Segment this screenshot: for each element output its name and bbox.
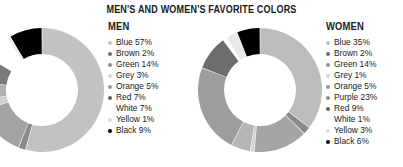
women-heading: WOMEN — [326, 20, 403, 33]
legend-label: Green 14% — [116, 59, 158, 70]
legend-label: Green 14% — [334, 59, 376, 70]
legend-label: Grey 1% — [334, 70, 367, 81]
women-donut-chart — [196, 26, 324, 154]
legend-item[interactable]: Grey 1% — [326, 70, 403, 81]
legend-item[interactable]: Blue 35% — [326, 37, 403, 48]
men-donut-slices — [0, 28, 104, 152]
legend-item[interactable]: Black 6% — [326, 136, 403, 147]
legend-label: Blue 35% — [334, 37, 370, 48]
legend-label: Yellow 1% — [116, 114, 154, 125]
legend-bullet-icon — [326, 96, 330, 100]
donut-slice[interactable] — [198, 68, 243, 145]
legend-label: Orange 5% — [334, 81, 376, 92]
legend-bullet-icon — [326, 129, 330, 133]
legend-bullet-icon — [108, 52, 112, 56]
legend-label: Brown 2% — [334, 48, 372, 59]
legend-bullet-icon — [108, 74, 112, 78]
legend-bullet-icon — [326, 118, 330, 122]
legend-label: Yellow 3% — [334, 125, 372, 136]
women-donut-svg — [196, 26, 324, 154]
legend-bullet-icon — [108, 63, 112, 67]
legend-bullet-icon — [108, 129, 112, 133]
legend-label: Black 9% — [116, 125, 151, 136]
men-heading: MEN — [108, 20, 206, 33]
legend-bullet-icon — [108, 41, 112, 45]
legend-label: White 7% — [116, 103, 152, 114]
legend-item[interactable]: White 1% — [326, 114, 403, 125]
legend-item[interactable]: Red 9% — [326, 103, 403, 114]
men-donut-chart — [0, 26, 106, 154]
legend-label: Red 9% — [334, 103, 364, 114]
legend-bullet-icon — [326, 140, 330, 144]
legend-item[interactable]: Orange 5% — [326, 81, 403, 92]
legend-bullet-icon — [108, 118, 112, 122]
women-donut-slices — [198, 28, 322, 152]
legend-bullet-icon — [108, 96, 112, 100]
legend-label: Purple 23% — [334, 92, 377, 103]
legend-bullet-icon — [326, 74, 330, 78]
legend-item[interactable]: Yellow 3% — [326, 125, 403, 136]
women-legend-list: Blue 35%Brown 2%Green 14%Grey 1%Orange 5… — [326, 37, 403, 147]
men-donut-svg — [0, 26, 106, 154]
women-legend-block: WOMEN Blue 35%Brown 2%Green 14%Grey 1%Or… — [326, 20, 403, 147]
legend-item[interactable]: Green 14% — [326, 59, 403, 70]
legend-label: Grey 3% — [116, 70, 149, 81]
legend-label: Black 6% — [334, 136, 369, 147]
donut-slice[interactable] — [260, 28, 322, 127]
legend-bullet-icon — [326, 107, 330, 111]
legend-item[interactable]: Brown 2% — [326, 48, 403, 59]
legend-label: Blue 57% — [116, 37, 152, 48]
legend-label: Orange 5% — [116, 81, 158, 92]
legend-item[interactable]: Purple 23% — [326, 92, 403, 103]
legend-bullet-icon — [326, 41, 330, 45]
page-title: MEN'S AND WOMEN'S FAVORITE COLORS — [28, 3, 375, 15]
legend-label: White 1% — [334, 114, 370, 125]
legend-bullet-icon — [326, 63, 330, 67]
legend-label: Brown 2% — [116, 48, 154, 59]
legend-bullet-icon — [326, 52, 330, 56]
legend-bullet-icon — [326, 85, 330, 89]
legend-bullet-icon — [108, 107, 112, 111]
legend-label: Red 7% — [116, 92, 146, 103]
legend-bullet-icon — [108, 85, 112, 89]
